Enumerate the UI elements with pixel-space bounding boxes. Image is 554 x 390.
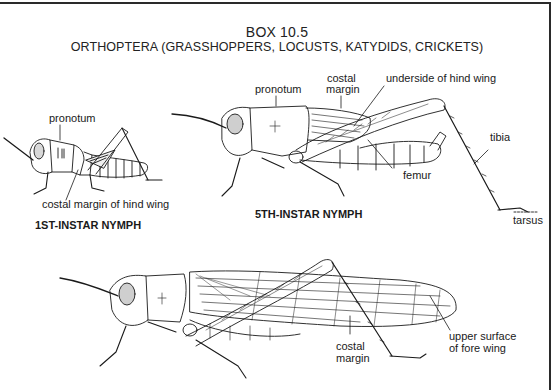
label-adult-costal-line2: margin (336, 353, 370, 364)
label-first-instar-costal-margin-hind-wing: costal margin of hind wing (42, 199, 169, 210)
label-upper-surface-line1: upper surface (449, 331, 516, 342)
label-underside-hind-wing: underside of hind wing (386, 73, 496, 84)
label-adult-costal-line1: costal (336, 341, 365, 352)
stage-label-fifth-instar: 5TH-INSTAR NYMPH (255, 208, 362, 220)
fifth-instar-nymph-drawing (172, 86, 538, 212)
label-tarsus: tarsus (513, 215, 543, 226)
label-fifth-instar-costal-line2: margin (326, 84, 360, 95)
first-instar-nymph-drawing (4, 125, 162, 200)
label-femur: femur (403, 170, 431, 181)
label-upper-surface-line2: of fore wing (449, 343, 506, 354)
label-fifth-instar-pronotum: pronotum (255, 84, 301, 95)
label-tibia: tibia (490, 132, 510, 143)
label-first-instar-pronotum: pronotum (49, 113, 95, 124)
adult-grasshopper-drawing (60, 260, 456, 378)
stage-label-first-instar: 1ST-INSTAR NYMPH (35, 219, 141, 231)
